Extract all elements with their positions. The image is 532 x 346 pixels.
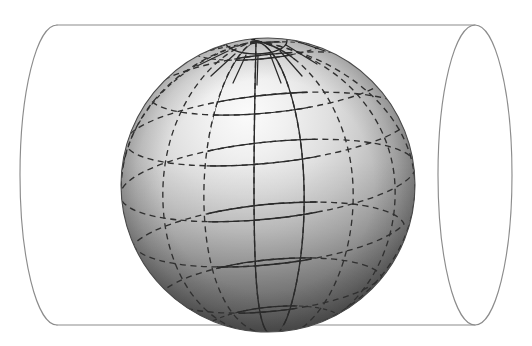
sphere	[120, 14, 416, 343]
figure-canvas	[0, 0, 532, 346]
north-pole-dot	[250, 35, 255, 40]
cylinder-right-cap-ellipse	[438, 25, 512, 325]
spoke-10	[284, 32, 324, 38]
spoke-11	[196, 32, 226, 36]
sphere-in-cylinder-figure: Sphere inscribed in a cylinder Shaded th…	[0, 0, 532, 346]
cylinder-left-cap-arc	[20, 25, 57, 325]
